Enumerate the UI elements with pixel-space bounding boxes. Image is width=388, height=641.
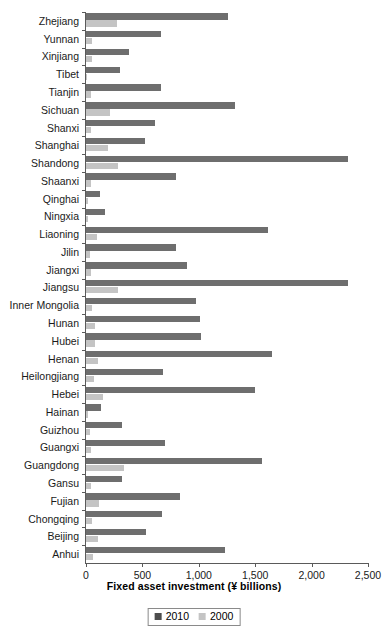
category-label: Guizhou xyxy=(40,424,79,435)
x-axis-tick xyxy=(312,563,313,567)
legend-label-2010: 2010 xyxy=(166,611,189,622)
category-label: Jilin xyxy=(61,247,79,258)
bar-2000 xyxy=(86,127,91,133)
x-axis-title: Fixed asset investment (¥ billions) xyxy=(0,580,388,592)
chart-row: Tibet xyxy=(86,65,368,83)
bar-2000 xyxy=(86,394,103,400)
chart-row: Heilongjiang xyxy=(86,367,368,385)
chart-row: Hainan xyxy=(86,403,368,421)
bar-2010 xyxy=(86,138,145,144)
bar-2010 xyxy=(86,244,176,250)
category-label: Sichuan xyxy=(41,104,79,115)
category-label: Chongqing xyxy=(28,513,79,524)
bar-2000 xyxy=(86,376,94,382)
bar-2010 xyxy=(86,280,348,286)
bar-2010 xyxy=(86,404,101,410)
bar-2000 xyxy=(86,216,88,222)
x-axis-tick-label: 2,000 xyxy=(298,570,324,581)
category-label: Inner Mongolia xyxy=(10,300,79,311)
chart-row: Shanghai xyxy=(86,136,368,154)
bar-2000 xyxy=(86,180,91,186)
bar-2000 xyxy=(86,500,99,506)
chart-row: Zhejiang xyxy=(86,12,368,30)
bar-2010 xyxy=(86,440,165,446)
bar-2010 xyxy=(86,298,196,304)
chart-row: Anhui xyxy=(86,545,368,563)
category-label: Hunan xyxy=(48,318,79,329)
category-label: Gansu xyxy=(48,478,79,489)
x-axis-tick xyxy=(255,563,256,567)
bar-2010 xyxy=(86,156,348,162)
legend-swatch-2000-icon xyxy=(199,613,206,620)
legend-label-2000: 2000 xyxy=(210,611,233,622)
chart-row: Jiangxi xyxy=(86,261,368,279)
category-label: Hebei xyxy=(52,389,79,400)
bar-chart: ZhejiangYunnanXinjiangTibetTianjinSichua… xyxy=(0,0,388,641)
x-axis-tick xyxy=(86,563,87,567)
category-label: Hubei xyxy=(52,336,79,347)
bar-2000 xyxy=(86,38,92,44)
bar-2000 xyxy=(86,465,124,471)
category-label: Beijing xyxy=(47,531,79,542)
x-axis-tick-label: 500 xyxy=(134,570,152,581)
chart-row: Guizhou xyxy=(86,421,368,439)
category-label: Xinjiang xyxy=(42,51,79,62)
category-label: Ningxia xyxy=(44,211,79,222)
x-axis-tick-label: 1,500 xyxy=(242,570,268,581)
bar-2000 xyxy=(86,483,91,489)
bar-2010 xyxy=(86,351,272,357)
chart-row: Guangdong xyxy=(86,456,368,474)
bar-2000 xyxy=(86,91,91,97)
category-label: Anhui xyxy=(52,549,79,560)
category-label: Qinghai xyxy=(43,193,79,204)
bar-2000 xyxy=(86,145,108,151)
bar-2010 xyxy=(86,529,146,535)
bar-2010 xyxy=(86,316,200,322)
bar-2010 xyxy=(86,493,180,499)
bar-2010 xyxy=(86,102,235,108)
bar-2000 xyxy=(86,287,118,293)
bar-2000 xyxy=(86,447,91,453)
bar-2010 xyxy=(86,49,129,55)
chart-row: Guangxi xyxy=(86,439,368,457)
bar-2000 xyxy=(86,269,91,275)
chart-row: Xinjiang xyxy=(86,48,368,66)
category-label: Shanxi xyxy=(47,122,79,133)
bar-2010 xyxy=(86,476,122,482)
bar-2000 xyxy=(86,411,88,417)
x-axis-tick-label: 1,000 xyxy=(186,570,212,581)
bar-2000 xyxy=(86,20,117,26)
chart-row: Yunnan xyxy=(86,30,368,48)
bar-2000 xyxy=(86,323,95,329)
category-label: Fujian xyxy=(50,496,79,507)
chart-row: Tianjin xyxy=(86,83,368,101)
bar-2000 xyxy=(86,554,93,560)
category-label: Zhejiang xyxy=(39,16,79,27)
category-label: Guangxi xyxy=(40,442,79,453)
category-label: Yunnan xyxy=(43,33,79,44)
chart-row: Shaanxi xyxy=(86,172,368,190)
chart-row: Ningxia xyxy=(86,208,368,226)
bar-2010 xyxy=(86,209,105,215)
chart-row: Hebei xyxy=(86,385,368,403)
bar-2000 xyxy=(86,109,110,115)
bar-2000 xyxy=(86,163,118,169)
bar-2000 xyxy=(86,340,95,346)
category-label: Jiangsu xyxy=(43,282,79,293)
chart-row: Qinghai xyxy=(86,190,368,208)
bar-2010 xyxy=(86,191,100,197)
chart-legend: 2010 2000 xyxy=(148,608,241,626)
chart-row: Gansu xyxy=(86,474,368,492)
legend-item-2000: 2000 xyxy=(199,611,233,622)
category-label: Guangdong xyxy=(24,460,79,471)
chart-row: Shandong xyxy=(86,154,368,172)
bar-2010 xyxy=(86,511,162,517)
chart-row: Jiangsu xyxy=(86,279,368,297)
bar-2010 xyxy=(86,458,262,464)
bar-2010 xyxy=(86,262,187,268)
category-label: Tibet xyxy=(56,69,79,80)
bar-2000 xyxy=(86,518,92,524)
bar-2010 xyxy=(86,31,161,37)
category-label: Tianjin xyxy=(48,87,79,98)
bar-2010 xyxy=(86,67,120,73)
